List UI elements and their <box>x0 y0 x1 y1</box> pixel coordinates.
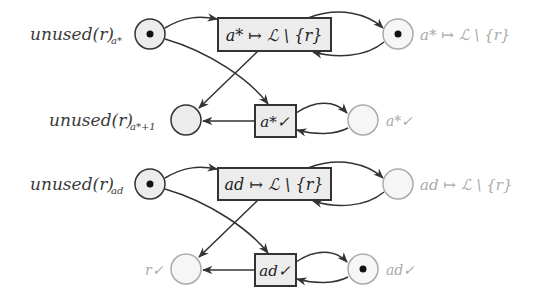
place-label-sub: a* <box>111 35 122 46</box>
transition-label: a*✓ <box>260 113 289 131</box>
token <box>147 31 154 38</box>
transition-a-star-map: a* ↦ ℒ \ {r} <box>218 18 331 51</box>
transition-label: ad ↦ ℒ \ {r} <box>225 175 324 194</box>
token <box>147 181 154 188</box>
arc-p1-t1 <box>165 17 217 28</box>
arc-t3-p7 <box>199 200 258 257</box>
place-a-d-map: ad ↦ ℒ \ {r} <box>383 169 513 199</box>
place-label: a* ↦ ℒ \ {r} <box>420 26 510 44</box>
place-a-star-map: a* ↦ ℒ \ {r} <box>383 19 510 49</box>
place-label-sub: ad <box>111 185 123 196</box>
transition-label: ad✓ <box>259 262 291 280</box>
token <box>360 266 367 273</box>
transition-a-d-done: ad✓ <box>255 254 296 286</box>
place-label: r✓ <box>145 262 164 278</box>
place-unused-a-star-plus-1: unused(r) a*+1 <box>49 105 201 135</box>
arc-p5-t3 <box>165 167 217 178</box>
place-label: unused(r) <box>49 110 133 130</box>
petri-net-diagram: unused(r) a* a* ↦ ℒ \ {r} a* ↦ ℒ \ {r} u… <box>0 0 547 300</box>
arc-p4-t2 <box>297 128 348 134</box>
place-unused-a-d: unused(r) ad <box>30 169 165 199</box>
arc-t1-p3 <box>199 51 258 108</box>
place-label: unused(r) <box>30 24 114 44</box>
place-label: ad✓ <box>386 262 415 278</box>
transition-a-star-done: a*✓ <box>255 105 296 137</box>
transition-a-d-map: ad ↦ ℒ \ {r} <box>218 168 331 200</box>
place-label: unused(r) <box>30 174 114 194</box>
block-a-d: unused(r) ad ad ↦ ℒ \ {r} ad ↦ ℒ \ {r} r… <box>30 162 513 286</box>
place-label: ad ↦ ℒ \ {r} <box>420 176 513 194</box>
transition-label: a* ↦ ℒ \ {r} <box>226 26 323 45</box>
block-a-star: unused(r) a* a* ↦ ℒ \ {r} a* ↦ ℒ \ {r} u… <box>30 12 510 137</box>
place-label: a*✓ <box>386 113 413 129</box>
arc-t2-p4 <box>296 103 347 113</box>
token <box>395 31 402 38</box>
place-unused-a-star: unused(r) a* <box>30 19 165 49</box>
arc-t4-p8 <box>296 252 347 262</box>
arc-p8-t4 <box>297 277 348 283</box>
place-label-sub: a*+1 <box>130 121 156 132</box>
place-a-star-done: a*✓ <box>348 105 413 135</box>
place-r-done: r✓ <box>145 254 201 284</box>
place-a-d-done: ad✓ <box>348 254 415 284</box>
